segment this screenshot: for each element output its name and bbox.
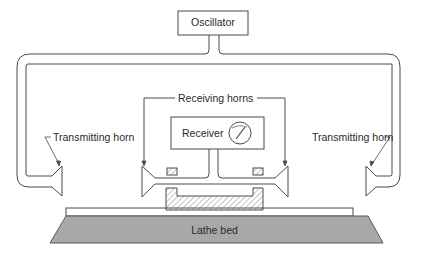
receiving-horns-leader-left [144, 98, 175, 164]
waveguide-outer [17, 35, 209, 187]
transmitting-horn-right-shape [366, 166, 380, 196]
diagram-canvas: Oscillator Receiving horns Receiver Tran… [0, 0, 430, 258]
workpiece-hatched-block [166, 188, 263, 210]
transmitting-horn-left-label: Transmitting horn [53, 132, 134, 143]
transmitting-horn-left-shape [48, 166, 62, 196]
spacer-block-right [253, 168, 263, 175]
oscillator-label: Oscillator [178, 17, 248, 28]
receiving-horn-left-shape [142, 166, 155, 197]
lathe-bed-label: Lathe bed [166, 225, 263, 236]
transmitting-horn-right-label: Transmitting horn [312, 132, 393, 143]
spacer-block-left [167, 168, 177, 175]
receiver-label: Receiver [182, 128, 223, 139]
receiving-horns-label: Receiving horns [178, 93, 253, 104]
receiving-horn-right-shape [275, 166, 288, 197]
